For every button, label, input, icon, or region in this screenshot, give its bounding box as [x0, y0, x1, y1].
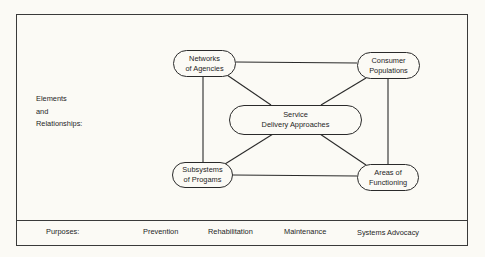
- purpose-rehabilitation: Rehabilitation: [208, 227, 253, 236]
- elements-relationships-label: Elements and Relationships:: [36, 93, 82, 131]
- purposes-label: Purposes:: [46, 227, 79, 236]
- node-consumer-populations: Consumer Populations: [357, 52, 420, 79]
- edge-center-areas: [320, 134, 366, 165]
- purpose-maintenance: Maintenance: [284, 227, 326, 236]
- node-service-delivery-approaches: Service Delivery Approaches: [229, 105, 362, 135]
- label-line: Relationships:: [36, 118, 82, 131]
- node-text: Delivery Approaches: [262, 120, 330, 130]
- edge-consumer-center: [321, 78, 366, 105]
- edge-center-subsystems: [225, 134, 273, 164]
- edge-networks-center: [227, 75, 271, 105]
- purpose-prevention: Prevention: [143, 227, 178, 236]
- node-text: Areas of: [374, 168, 402, 178]
- node-text: of Agencies: [185, 64, 223, 74]
- node-text: Consumer: [371, 56, 405, 66]
- node-areas-of-functioning: Areas of Functioning: [357, 164, 419, 191]
- node-text: Networks: [189, 54, 220, 64]
- node-text: Functioning: [369, 178, 407, 188]
- label-line: Elements: [36, 93, 82, 106]
- node-networks-of-agencies: Networks of Agencies: [173, 50, 236, 77]
- node-text: Populations: [369, 66, 408, 76]
- edge-networks-consumer: [236, 62, 357, 63]
- purpose-systems-advocacy: Systems Advocacy: [357, 228, 419, 237]
- node-subsystems-of-programs: Subsystems of Progams: [172, 162, 233, 188]
- node-text: of Progams: [184, 175, 222, 185]
- label-line: and: [36, 106, 82, 119]
- edge-subsystems-areas: [233, 175, 357, 176]
- node-text: Subsystems: [182, 165, 222, 175]
- node-text: Service: [283, 110, 308, 120]
